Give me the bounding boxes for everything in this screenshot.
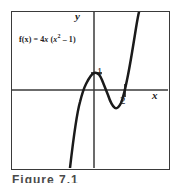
x-axis-label: x xyxy=(152,90,158,101)
tick-label-2: 2 xyxy=(120,95,126,106)
figure-container: y x 1 2 f(x) = 4x (x2 – 1) Figure 7.1 xyxy=(0,0,181,183)
formula-prefix: f(x) = 4 xyxy=(19,35,44,44)
formula-tail: – 1) xyxy=(61,35,76,44)
tick-label-1: 1 xyxy=(97,67,102,78)
figure-caption: Figure 7.1 xyxy=(12,173,79,183)
y-axis-label: y xyxy=(75,11,80,22)
function-formula-label: f(x) = 4x (x2 – 1) xyxy=(19,36,76,44)
